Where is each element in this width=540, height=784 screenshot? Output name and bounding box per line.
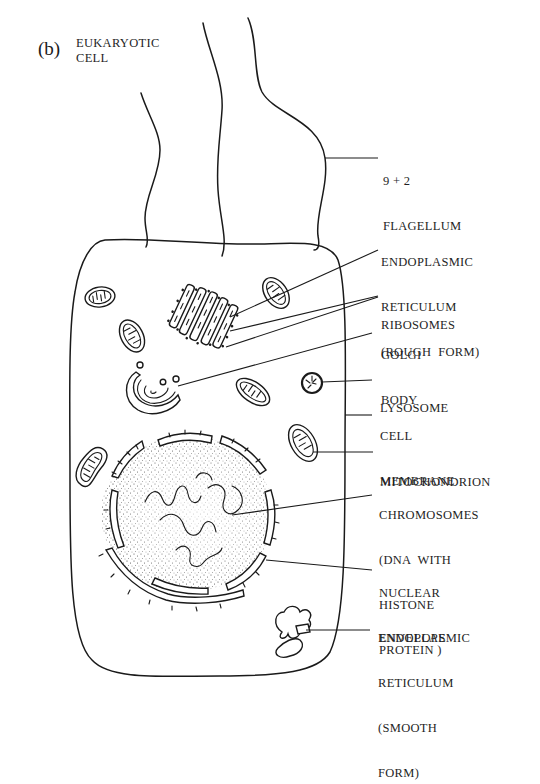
rough-er-cisternae <box>167 281 240 352</box>
label-line: CELL <box>380 429 455 444</box>
mitochondrion-4 <box>232 373 275 411</box>
golgi-body <box>127 362 181 414</box>
flagellum-right <box>248 18 326 250</box>
leader-nuclear-envelope <box>266 560 372 570</box>
label-line: GOLGI <box>381 348 421 363</box>
label-line: ENDOPLASMIC <box>381 255 479 270</box>
flagellum-left <box>141 93 160 247</box>
flagellum-middle <box>203 23 224 256</box>
label-line: 9 + 2 <box>383 174 461 189</box>
label-line: (SMOOTH <box>378 721 470 736</box>
leader-ribosomes-1 <box>230 296 378 331</box>
label-line: RETICULUM <box>378 676 470 691</box>
flagella <box>141 18 326 256</box>
mitochondrion-3 <box>257 273 295 313</box>
mitochondrion-6 <box>71 443 111 490</box>
smooth-er <box>276 606 311 657</box>
mitochondrion-2 <box>114 316 149 356</box>
title-line: CELL <box>76 51 160 66</box>
nucleus <box>99 430 279 611</box>
title-line: EUKARYOTIC <box>76 36 160 51</box>
label-er-smooth: ENDOPLASMIC RETICULUM (SMOOTH FORM) <box>378 601 470 784</box>
mitochondrion-5 <box>283 420 324 467</box>
panel-label: (b) <box>38 38 60 60</box>
rough-er <box>163 279 243 355</box>
label-line: NUCLEAR <box>379 586 446 601</box>
leader-lysosome <box>322 380 372 382</box>
lysosome <box>302 373 322 393</box>
diagram-title: EUKARYOTIC CELL <box>76 36 160 66</box>
leader-er-rough <box>230 250 378 317</box>
label-line: FORM) <box>378 766 470 781</box>
label-line: ENDOPLASMIC <box>378 631 470 646</box>
label-line: CHROMOSOMES <box>379 508 479 523</box>
leader-ribosomes-2 <box>226 297 378 347</box>
mitochondrion-1 <box>84 285 116 309</box>
